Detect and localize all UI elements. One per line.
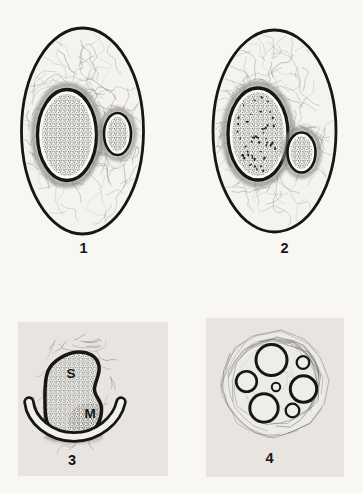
panel-3-label-s: S (66, 366, 75, 381)
panel-1: 1 (6, 20, 156, 256)
panel-3: S M 3 (18, 322, 168, 476)
panel-3-number: 3 (68, 452, 76, 468)
panel-2-number: 2 (280, 240, 288, 256)
panel-2-small-body-stipple (291, 136, 313, 169)
panel-1-number: 1 (79, 240, 87, 256)
panel-3-label-m: M (84, 406, 95, 421)
panel-2: 2 (199, 14, 340, 256)
panel-2-large-body-stipple (232, 92, 284, 176)
figure-plate: 1 2 S M 3 (0, 0, 363, 493)
panel-4-number: 4 (265, 450, 273, 466)
figure-canvas: 1 2 S M 3 (0, 0, 363, 493)
panel-1-small-body-stipple (108, 117, 128, 152)
panel-4: 4 (206, 318, 344, 477)
panel-1-large-body-stipple (42, 94, 92, 176)
